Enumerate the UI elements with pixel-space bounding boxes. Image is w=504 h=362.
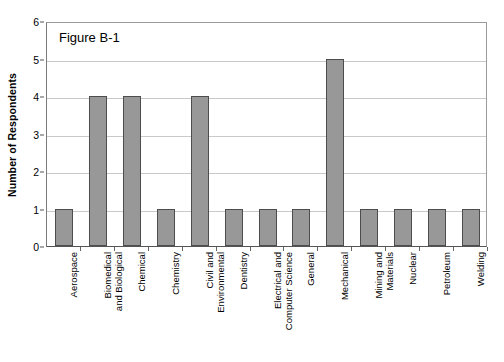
x-category-label: Electrical and Computer Science bbox=[273, 252, 291, 360]
y-tick-mark bbox=[40, 134, 44, 135]
x-category-label-text: Welding bbox=[476, 252, 487, 286]
x-tick-mark bbox=[283, 247, 284, 251]
x-category-label: Welding bbox=[476, 252, 494, 360]
x-category-label: General bbox=[306, 252, 324, 360]
x-tick-mark bbox=[385, 247, 386, 251]
y-tick-label: 6 bbox=[33, 16, 39, 28]
bar bbox=[123, 96, 141, 246]
bar bbox=[360, 209, 378, 247]
x-category-label: Civil and Environmental bbox=[205, 252, 223, 360]
x-category-label-text: Chemistry bbox=[171, 252, 182, 295]
y-axis-tick-labels: 6543210 bbox=[22, 22, 44, 247]
y-tick-mark bbox=[40, 97, 44, 98]
bar bbox=[225, 209, 243, 247]
x-category-label-text: Nuclear bbox=[408, 252, 419, 285]
bar bbox=[394, 209, 412, 247]
y-tick-mark bbox=[40, 22, 44, 23]
x-category-label-text: General bbox=[306, 252, 317, 286]
x-category-label: Mechanical bbox=[340, 252, 358, 360]
bars-layer bbox=[47, 23, 486, 246]
x-category-label-text: Aerospace bbox=[69, 252, 80, 297]
x-tick-mark bbox=[317, 247, 318, 251]
x-category-label-text: Petroleum bbox=[442, 252, 453, 295]
x-category-label-text: Civil and Environmental bbox=[205, 252, 226, 313]
x-category-label-text: Chemical bbox=[137, 252, 148, 292]
y-tick-label: 5 bbox=[33, 54, 39, 66]
y-tick-label: 4 bbox=[33, 91, 39, 103]
x-category-label-text: Mechanical bbox=[340, 252, 351, 300]
bar bbox=[157, 209, 175, 247]
x-tick-mark bbox=[80, 247, 81, 251]
x-category-label: Chemistry bbox=[171, 252, 189, 360]
x-category-label: Aerospace bbox=[69, 252, 87, 360]
plot-area: Figure B-1 bbox=[46, 22, 487, 247]
y-tick-label: 0 bbox=[33, 241, 39, 253]
x-tick-mark bbox=[250, 247, 251, 251]
x-category-label: Nuclear bbox=[408, 252, 426, 360]
y-axis-title-text: Number of Respondents bbox=[6, 72, 18, 196]
y-tick-label: 1 bbox=[33, 204, 39, 216]
bar bbox=[428, 209, 446, 247]
x-category-label: Biomedical and Biological bbox=[103, 252, 121, 360]
x-tick-mark bbox=[148, 247, 149, 251]
bar bbox=[292, 209, 310, 247]
x-category-label-text: Mining and Materials bbox=[374, 252, 395, 298]
x-tick-mark bbox=[114, 247, 115, 251]
y-tick-mark bbox=[40, 247, 44, 248]
y-axis-title: Number of Respondents bbox=[2, 22, 22, 247]
y-tick-mark bbox=[40, 59, 44, 60]
x-tick-mark bbox=[419, 247, 420, 251]
x-tick-mark bbox=[216, 247, 217, 251]
x-category-label: Chemical bbox=[137, 252, 155, 360]
x-axis-category-labels: AerospaceBiomedical and BiologicalChemic… bbox=[46, 252, 487, 360]
x-category-label-text: Dentistry bbox=[239, 252, 250, 289]
x-tick-mark bbox=[351, 247, 352, 251]
bar bbox=[89, 96, 107, 246]
x-category-label-text: Electrical and Computer Science bbox=[273, 252, 294, 330]
y-tick-label: 3 bbox=[33, 129, 39, 141]
x-category-label: Petroleum bbox=[442, 252, 460, 360]
bar bbox=[326, 59, 344, 247]
x-tick-mark bbox=[182, 247, 183, 251]
x-category-label: Mining and Materials bbox=[374, 252, 392, 360]
bar bbox=[191, 96, 209, 246]
bar bbox=[259, 209, 277, 247]
x-category-label-text: Biomedical and Biological bbox=[103, 252, 124, 311]
x-tick-mark bbox=[453, 247, 454, 251]
bar bbox=[55, 209, 73, 247]
bar bbox=[462, 209, 480, 247]
x-tick-mark bbox=[487, 247, 488, 251]
x-category-label: Dentistry bbox=[239, 252, 257, 360]
figure-b-1-bar-chart: Number of Respondents 6543210 Figure B-1… bbox=[0, 0, 504, 362]
y-tick-label: 2 bbox=[33, 166, 39, 178]
y-tick-mark bbox=[40, 172, 44, 173]
y-tick-mark bbox=[40, 209, 44, 210]
